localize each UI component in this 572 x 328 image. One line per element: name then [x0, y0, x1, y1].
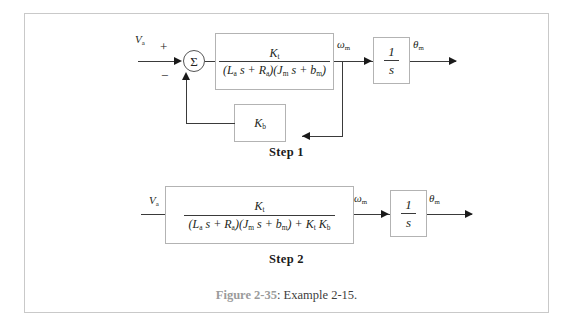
- step2-integrator-transfer-function: 1 s: [401, 197, 416, 231]
- figure-caption-number: Figure 2-35: [216, 288, 277, 302]
- step2-theta-label: θm: [429, 192, 440, 204]
- step2-plant-denominator: (La s + Ra)(Jm s + bm) + Kt Kb: [184, 215, 334, 231]
- step1-integrator-input-arrow: [364, 57, 372, 65]
- feedback-kb-input-arrow: [302, 132, 310, 140]
- step2-plant-transfer-function: Kt (La s + Ra)(Jm s + bm) + Kt Kb: [184, 199, 334, 230]
- feedback-gain-label: Kb: [254, 116, 266, 131]
- step1-integrator-block: 1 s: [373, 37, 410, 84]
- feedback-line-to-riser: [186, 123, 235, 124]
- step1-input-arrow: [174, 57, 182, 65]
- figure-caption: Figure 2-35: Example 2-15.: [25, 288, 548, 303]
- step1-caption: Step 1: [25, 145, 548, 160]
- step2-input-label: Va: [149, 194, 159, 206]
- step1-plant-transfer-function: Kt (La s + Ra)(Jm s + bm): [219, 46, 330, 77]
- step1-plant-block: Kt (La s + Ra)(Jm s + bm): [215, 33, 334, 90]
- summing-junction: Σ: [183, 50, 205, 72]
- step2-output-arrow: [465, 210, 473, 218]
- step1-integrator-transfer-function: 1 s: [384, 44, 399, 78]
- step1-output-arrow: [449, 57, 457, 65]
- step1-integrator-numerator: 1: [384, 44, 399, 60]
- step1-input-label: Va: [135, 33, 145, 45]
- step1-integrator-denominator: s: [384, 60, 399, 77]
- step1-minus-sign: −: [161, 69, 168, 82]
- step2-plant-block: Kt (La s + Ra)(Jm s + bm) + Kt Kb: [165, 186, 354, 244]
- feedback-sum-input-arrow: [182, 72, 190, 80]
- step1-theta-label: θm: [413, 38, 424, 50]
- step2-caption: Step 2: [25, 252, 548, 267]
- step2-plant-numerator: Kt: [184, 199, 334, 214]
- step1-plus-sign: +: [160, 40, 167, 53]
- step2-integrator-block: 1 s: [390, 190, 427, 237]
- step1-input-line: [138, 61, 175, 62]
- feedback-tap-line: [342, 61, 343, 137]
- step2-integrator-numerator: 1: [401, 197, 416, 213]
- step2-integrator-input-arrow: [381, 210, 389, 218]
- step1-plant-numerator: Kt: [219, 46, 330, 61]
- figure-caption-text: : Example 2-15.: [277, 288, 357, 302]
- step1-omega-label: ωm: [337, 38, 350, 50]
- step2-integrator-denominator: s: [401, 213, 416, 230]
- figure-frame: Va + − Σ Kt (La s + Ra)(Jm s + bm) ωm: [24, 13, 549, 313]
- sigma-symbol: Σ: [190, 55, 198, 68]
- step2-omega-label: ωm: [354, 192, 367, 204]
- step1-plant-denominator: (La s + Ra)(Jm s + bm): [219, 61, 330, 77]
- feedback-riser-line: [186, 76, 187, 124]
- feedback-gain-block: Kb: [234, 104, 286, 142]
